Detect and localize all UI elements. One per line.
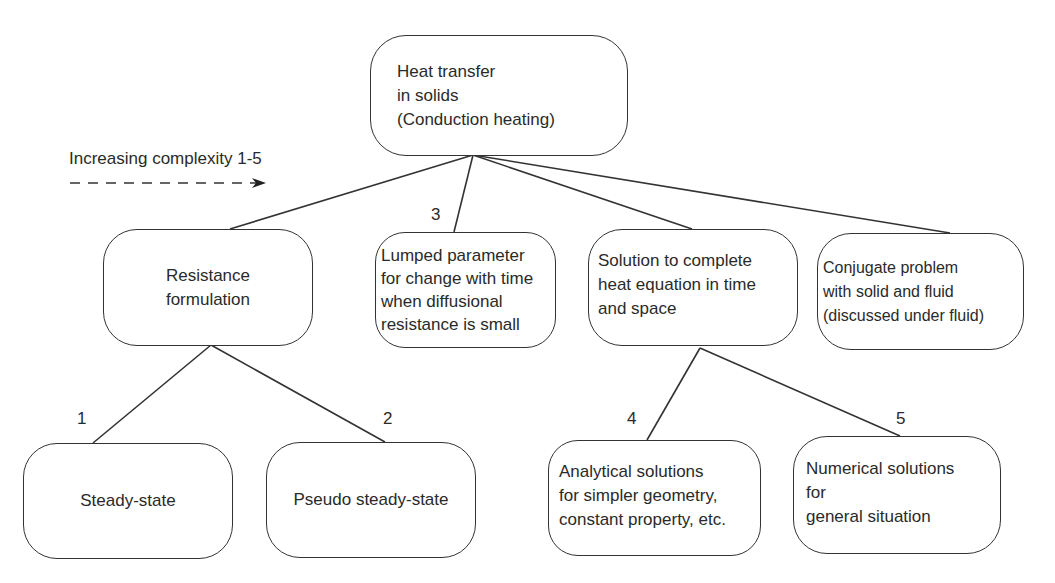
- node-text-line: Resistance: [166, 264, 250, 288]
- node-lumped-parameter: Lumped parameter for change with time wh…: [375, 232, 556, 348]
- node-text-line: Conjugate problem: [823, 256, 958, 280]
- node-text-line: in solids: [397, 84, 458, 108]
- node-text-line: Lumped parameter: [381, 244, 525, 267]
- node-text-line: Pseudo steady-state: [294, 488, 449, 512]
- edge-resistance-pseudo: [211, 345, 385, 442]
- node-text-line: Numerical solutions: [806, 457, 954, 481]
- complexity-caption: Increasing complexity 1-5: [69, 149, 262, 169]
- node-text-line: (Conduction heating): [397, 108, 555, 132]
- edge-root-solution: [473, 155, 692, 229]
- node-text-line: Heat transfer: [397, 60, 495, 84]
- node-text-line: constant property, etc.: [559, 508, 726, 532]
- node-text-line: for change with time: [381, 267, 533, 290]
- node-text-line: (discussed under fluid): [823, 304, 984, 328]
- node-steady-state: Steady-state: [23, 443, 233, 559]
- node-text-line: and space: [598, 297, 676, 321]
- node-numerical-solutions: Numerical solutions for general situatio…: [793, 436, 1001, 554]
- node-pseudo-steady-state: Pseudo steady-state: [266, 442, 476, 558]
- node-text-line: Analytical solutions: [559, 460, 704, 484]
- node-conjugate-problem: Conjugate problem with solid and fluid (…: [817, 233, 1024, 350]
- node-text-line: with solid and fluid: [823, 280, 954, 304]
- node-text-line: general situation: [806, 505, 931, 529]
- heat-transfer-diagram: Increasing complexity 1-5 Heat transfer …: [0, 0, 1055, 583]
- node-text-line: when diffusional: [381, 290, 503, 313]
- node-heat-transfer-in-solids: Heat transfer in solids (Conduction heat…: [370, 35, 628, 156]
- node-text-line: heat equation in time: [598, 273, 756, 297]
- node-text-line: Solution to complete: [598, 249, 752, 273]
- step-label-3: 3: [431, 205, 440, 225]
- node-resistance-formulation: Resistance formulation: [103, 229, 313, 346]
- node-text-line: formulation: [166, 288, 250, 312]
- node-text-line: resistance is small: [381, 313, 520, 336]
- step-label-5: 5: [896, 409, 905, 429]
- edge-solution-analytical: [647, 348, 700, 440]
- edge-solution-numerical: [700, 348, 900, 436]
- node-text-line: for simpler geometry,: [559, 484, 717, 508]
- node-text-line: Steady-state: [80, 489, 175, 513]
- node-solution-heat-equation: Solution to complete heat equation in ti…: [588, 229, 798, 346]
- node-analytical-solutions: Analytical solutions for simpler geometr…: [548, 440, 761, 556]
- node-text-line: for: [806, 481, 826, 505]
- edge-root-lumped: [454, 155, 473, 232]
- step-label-2: 2: [383, 409, 392, 429]
- edge-resistance-steady: [93, 345, 211, 443]
- step-label-4: 4: [627, 409, 636, 429]
- edge-root-conjugate: [473, 155, 950, 233]
- step-label-1: 1: [77, 409, 86, 429]
